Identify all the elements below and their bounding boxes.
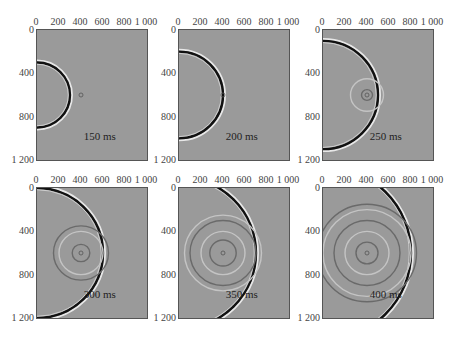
x-tick-label: 600	[237, 174, 252, 185]
y-tick-label: 400	[305, 225, 322, 236]
x-tick-label: 200	[193, 174, 208, 185]
x-tick-label: 1 000	[135, 16, 158, 27]
y-tick-label: 0	[29, 182, 36, 193]
x-tick-label: 1 000	[277, 174, 300, 185]
x-tick-label: 200	[337, 174, 352, 185]
y-tick-label: 1 200	[298, 154, 323, 165]
y-tick-label: 1 200	[154, 312, 179, 323]
x-tick-label: 1 000	[277, 16, 300, 27]
x-tick-label: 400	[73, 16, 88, 27]
y-tick-label: 0	[29, 24, 36, 35]
time-label: 150 ms	[84, 130, 116, 142]
time-label: 400 ms	[370, 288, 402, 300]
x-tick-label: 400	[73, 174, 88, 185]
x-tick-label: 1 000	[421, 174, 444, 185]
y-tick-label: 1 200	[154, 154, 179, 165]
y-tick-label: 400	[305, 67, 322, 78]
y-tick-label: 400	[19, 67, 36, 78]
x-tick-label: 800	[259, 16, 274, 27]
x-tick-label: 600	[95, 16, 110, 27]
x-tick-label: 800	[403, 174, 418, 185]
x-tick-label: 1 000	[421, 16, 444, 27]
y-tick-label: 0	[315, 182, 322, 193]
x-tick-label: 200	[193, 16, 208, 27]
x-tick-label: 400	[359, 174, 374, 185]
time-label: 200 ms	[226, 130, 258, 142]
y-tick-label: 800	[161, 268, 178, 279]
x-tick-label: 400	[215, 174, 230, 185]
y-tick-label: 1 200	[12, 154, 37, 165]
y-tick-label: 0	[171, 182, 178, 193]
y-tick-label: 800	[19, 110, 36, 121]
y-tick-label: 800	[19, 268, 36, 279]
y-tick-label: 800	[305, 268, 322, 279]
x-tick-label: 200	[51, 16, 66, 27]
x-tick-label: 400	[215, 16, 230, 27]
x-tick-label: 600	[95, 174, 110, 185]
x-tick-label: 600	[381, 16, 396, 27]
y-tick-label: 0	[171, 24, 178, 35]
x-tick-label: 800	[117, 16, 132, 27]
y-tick-label: 800	[161, 110, 178, 121]
y-tick-label: 1 200	[298, 312, 323, 323]
time-label: 300 ms	[84, 288, 116, 300]
y-tick-label: 1 200	[12, 312, 37, 323]
y-tick-label: 800	[305, 110, 322, 121]
x-tick-label: 600	[381, 174, 396, 185]
time-label: 250 ms	[370, 130, 402, 142]
x-tick-label: 800	[117, 174, 132, 185]
x-tick-label: 200	[337, 16, 352, 27]
y-tick-label: 400	[19, 225, 36, 236]
x-tick-label: 800	[259, 174, 274, 185]
x-tick-label: 600	[237, 16, 252, 27]
x-tick-label: 400	[359, 16, 374, 27]
x-tick-label: 800	[403, 16, 418, 27]
time-label: 350 ms	[226, 288, 258, 300]
y-tick-label: 400	[161, 67, 178, 78]
x-tick-label: 1 000	[135, 174, 158, 185]
x-tick-label: 200	[51, 174, 66, 185]
y-tick-label: 0	[315, 24, 322, 35]
y-tick-label: 400	[161, 225, 178, 236]
